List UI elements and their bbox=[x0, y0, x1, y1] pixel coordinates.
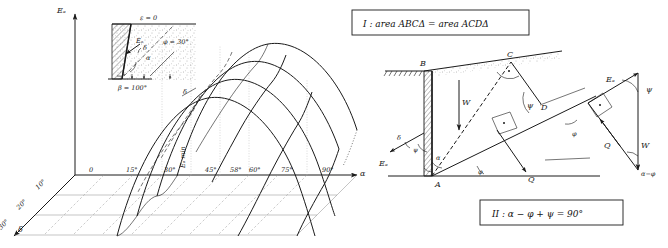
retaining-wall-inset: ε = 0 Eₐ δ φ = 30° α bbox=[108, 14, 196, 92]
segment-CD bbox=[511, 62, 541, 104]
angle-label-phi-right: φ bbox=[572, 130, 577, 138]
axis-label-Ea: Eₐ bbox=[56, 6, 66, 15]
angle-label-phi-base: φ bbox=[478, 168, 483, 176]
triangle-label-W: W bbox=[641, 141, 650, 150]
angle-label-psi-D: ψ bbox=[527, 101, 534, 110]
alpha-tick-labels: 0 15° 30° 45° 58° 60° 75° 90° bbox=[89, 166, 334, 174]
alpha-tick-15: 15° bbox=[126, 166, 138, 174]
inset-label-phi: φ = 30° bbox=[163, 38, 189, 46]
force-label-Ea-wall: Eₐ bbox=[378, 159, 388, 168]
inset-angle-beta: β = 100° bbox=[117, 84, 147, 92]
inset-angle-delta: δ bbox=[143, 44, 147, 52]
inset-angle-alpha: α bbox=[146, 54, 151, 62]
box-condition-I-text: I : area ABCΔ = area ACDΔ bbox=[362, 19, 489, 29]
apex-construction: δ bbox=[182, 88, 196, 96]
right-wall-body bbox=[424, 71, 432, 176]
alpha-tick-58: 58° bbox=[230, 166, 242, 174]
force-label-W: W bbox=[462, 98, 471, 107]
left-panel-3d-plot: Eₐ α δ bbox=[0, 6, 366, 236]
inset-surface-label: ε = 0 bbox=[140, 14, 157, 22]
alpha-tick-0: 0 bbox=[89, 166, 93, 174]
alpha-tick-75: 75° bbox=[281, 166, 293, 174]
force-arrow-Q bbox=[497, 130, 526, 172]
alpha-tick-60: 60° bbox=[249, 166, 261, 174]
force-arrow-Ea-wall bbox=[390, 133, 424, 152]
delta-tick-20: 20° bbox=[14, 198, 29, 213]
point-label-C: C bbox=[507, 50, 513, 59]
engineering-figure: Eₐ α δ bbox=[0, 0, 668, 248]
right-panel-force-diagram: I : area ABCΔ = area ACDΔ II : α − φ + ψ… bbox=[352, 10, 656, 225]
box-condition-II-text: II : α − φ + ψ = 90° bbox=[491, 209, 583, 219]
delta-tick-10: 10° bbox=[34, 178, 48, 192]
angle-label-psi-wall: ψ bbox=[413, 146, 419, 154]
delta-tick-30: 30° bbox=[0, 218, 11, 232]
triangle-angle-psi: ψ bbox=[646, 85, 653, 94]
left-ground-hatching bbox=[384, 71, 422, 76]
force-label-Q: Q bbox=[528, 175, 535, 184]
guide-line-lower bbox=[545, 158, 590, 160]
delta-tick-labels: 10° 20° 30° bbox=[0, 178, 48, 232]
point-label-B: B bbox=[419, 59, 426, 68]
triangle-label-Q: Q bbox=[604, 141, 611, 150]
triangle-angle-alpha-minus-phi: α−φ bbox=[641, 170, 656, 178]
alpha-tick-45: 45° bbox=[204, 166, 217, 174]
angle-label-alpha-A: α bbox=[436, 154, 441, 162]
apex-marker-label: δ bbox=[183, 88, 187, 96]
right-angle-dot-C bbox=[508, 70, 510, 72]
axis-label-alpha: α bbox=[360, 169, 366, 178]
slip-surface-AC bbox=[432, 62, 511, 176]
angle-label-delta-wall: δ bbox=[397, 134, 401, 142]
point-label-A: A bbox=[434, 180, 441, 189]
alpha-tick-90: 90° bbox=[322, 166, 334, 174]
triangle-label-Ea: Eₐ bbox=[605, 75, 615, 84]
axis-label-delta: δ bbox=[18, 225, 23, 234]
backfill-stipple bbox=[424, 52, 560, 78]
guide-line-upper bbox=[540, 88, 585, 105]
force-triangle: W Eₐ Q ψ α−φ bbox=[588, 73, 656, 178]
